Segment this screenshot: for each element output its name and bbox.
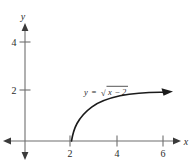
graph-figure: 2 4 6 2 4 x y y = √ x − 2 <box>0 0 192 161</box>
y-axis-down-arrow-icon <box>22 152 29 160</box>
equation-label: y = √ x − 2 <box>83 86 128 97</box>
x-tick-label-2: 2 <box>68 148 73 159</box>
x-axis-left-arrow-icon <box>3 138 11 145</box>
x-tick-label-4: 4 <box>115 148 120 159</box>
x-tick-label-6: 6 <box>161 148 166 159</box>
radicand-number: 2 <box>122 87 127 97</box>
y-axis-label: y <box>20 11 26 22</box>
graph-svg: 2 4 6 2 4 x y y = √ x − 2 <box>0 0 192 161</box>
equation-equals: = <box>91 87 97 97</box>
y-tick-label-2: 2 <box>12 85 17 96</box>
radicand-operator: − <box>115 87 121 97</box>
function-curve <box>72 92 166 141</box>
y-tick-label-4: 4 <box>12 37 17 48</box>
curve-arrow-icon <box>162 88 174 96</box>
equation-lhs: y <box>83 87 88 97</box>
x-axis-right-arrow-icon <box>173 138 181 145</box>
radical-sign-icon: √ <box>101 88 106 98</box>
x-axis-label: x <box>183 136 189 147</box>
y-axis-up-arrow-icon <box>22 23 29 31</box>
radicand-variable: x <box>107 87 112 97</box>
